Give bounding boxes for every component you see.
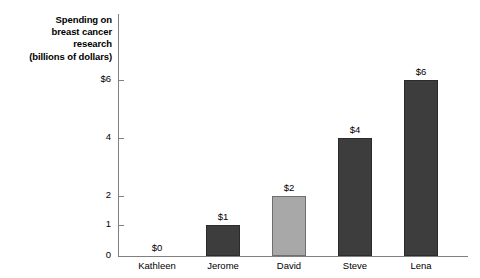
- category-label-david: David: [256, 260, 322, 271]
- bar-david[interactable]: [272, 196, 306, 256]
- y-tick-mark: [118, 196, 124, 197]
- y-tick-mark: [118, 80, 124, 81]
- x-axis-line: [118, 256, 468, 257]
- y-tick-label: 0: [78, 249, 111, 260]
- category-label-steve: Steve: [322, 260, 388, 271]
- y-tick-mark: [118, 225, 124, 226]
- y-axis-title-line-2: breast cancer: [8, 26, 112, 38]
- y-tick-label: $6: [78, 73, 111, 84]
- value-label-steve: $4: [325, 124, 385, 135]
- y-tick-mark: [118, 138, 124, 139]
- y-tick-label: 1: [78, 218, 111, 229]
- bar-lena[interactable]: [404, 80, 438, 256]
- y-axis-title: Spending on breast cancer research (bill…: [8, 14, 112, 63]
- y-tick-label: 4: [78, 131, 111, 142]
- y-axis-title-line-3: research: [8, 38, 112, 50]
- value-label-lena: $6: [391, 66, 451, 77]
- y-axis-line: [118, 14, 119, 257]
- y-axis-title-line-4: (billions of dollars): [8, 51, 112, 63]
- y-tick-mark: [118, 256, 124, 257]
- value-label-jerome: $1: [193, 211, 253, 222]
- category-label-lena: Lena: [388, 260, 454, 271]
- y-tick-label: 2: [78, 189, 111, 200]
- y-axis-title-line-1: Spending on: [8, 14, 112, 26]
- bar-jerome[interactable]: [206, 225, 240, 256]
- category-label-kathleen: Kathleen: [124, 260, 190, 271]
- category-label-jerome: Jerome: [190, 260, 256, 271]
- bar-chart: Spending on breast cancer research (bill…: [0, 0, 480, 278]
- value-label-david: $2: [259, 182, 319, 193]
- bar-steve[interactable]: [338, 138, 372, 256]
- value-label-kathleen: $0: [127, 242, 187, 253]
